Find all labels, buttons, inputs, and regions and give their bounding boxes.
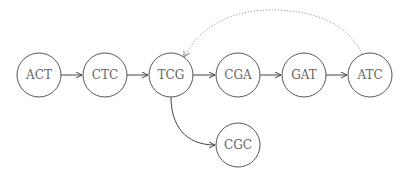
node-atc[interactable]: ATC <box>348 53 392 97</box>
node-cga[interactable]: CGA <box>216 53 260 97</box>
node-ctc[interactable]: CTC <box>83 53 127 97</box>
edge-atc-tcg <box>184 10 362 57</box>
node-label: ATC <box>356 68 382 82</box>
node-cgc[interactable]: CGC <box>216 123 260 167</box>
node-label: TCG <box>158 68 185 82</box>
node-gat[interactable]: GAT <box>282 53 326 97</box>
node-act[interactable]: ACT <box>17 53 61 97</box>
node-label: GAT <box>291 68 317 82</box>
edge-tcg-cgc <box>171 97 215 145</box>
node-label: CGA <box>224 68 252 82</box>
node-tcg[interactable]: TCG <box>149 53 193 97</box>
node-label: CGC <box>224 138 252 152</box>
graph-canvas: ACT CTC TCG CGA GAT ATC CGC <box>0 0 405 176</box>
node-label: ACT <box>25 68 52 82</box>
node-label: CTC <box>92 68 118 82</box>
